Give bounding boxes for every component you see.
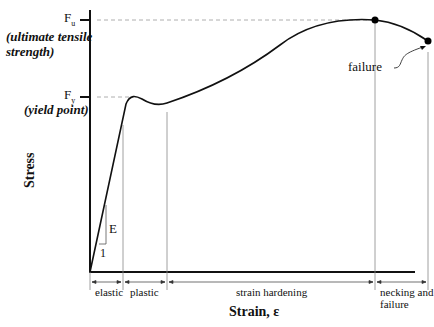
slope-run-label: 1 [100,246,106,261]
fu-label: Fu [64,10,75,28]
region-necking-2: failure [380,298,409,310]
fu-description-2: strength) [6,44,54,60]
stress-strain-diagram [0,0,434,327]
stress-strain-curve [90,20,428,272]
failure-point [425,38,432,45]
region-necking: necking and [380,286,433,298]
y-axis-label: Stress [22,152,38,188]
slope-e-label: E [109,221,117,237]
region-elastic: elastic [95,286,123,298]
failure-label: failure [348,59,382,75]
region-plastic: plastic [130,286,159,298]
fy-description: (yield point) [24,102,89,118]
fu-description: (ultimate tensile [6,29,92,45]
region-strain-hardening: strain hardening [236,286,307,298]
failure-arrow [394,47,423,68]
x-axis-label: Strain, ε [229,304,279,320]
ultimate-point [372,17,379,24]
region-arrows [92,281,426,284]
